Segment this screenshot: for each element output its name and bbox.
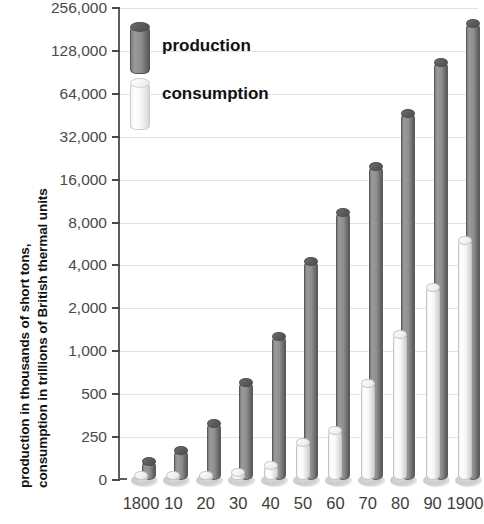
bar-consumption[interactable] [426, 287, 440, 480]
bar-consumption[interactable] [231, 472, 245, 480]
y-axis-tick-label: 128,000 [51, 42, 107, 60]
bar-production[interactable] [272, 336, 286, 480]
x-axis-tick-label: 90 [423, 494, 441, 513]
y-axis-tick [112, 136, 120, 138]
legend-item-production: production [130, 22, 350, 78]
y-axis-tick-label: 1,000 [68, 342, 107, 360]
coal-production-consumption-chart: production in thousands of short tons, c… [0, 0, 484, 524]
y-axis-tick-label: 500 [81, 385, 107, 403]
bar-consumption[interactable] [264, 465, 278, 480]
y-axis-tick [112, 393, 120, 395]
legend-label-consumption: consumption [162, 84, 269, 104]
y-axis-tick [112, 222, 120, 224]
y-axis-title-line-1: production in thousands of short tons, [17, 244, 32, 488]
chart-legend: production consumption [130, 22, 350, 134]
x-axis-tick-label: 70 [359, 494, 377, 513]
y-axis-tick [112, 50, 120, 52]
y-axis-tick-label: 250 [81, 428, 107, 446]
bar-consumption[interactable] [328, 430, 342, 480]
y-axis-tick [112, 179, 120, 181]
gridline [120, 137, 478, 138]
legend-label-production: production [162, 36, 251, 56]
y-axis-title-line-2: consumption in trillions of British ther… [35, 188, 50, 488]
y-axis-tick [112, 307, 120, 309]
y-axis-tick [112, 264, 120, 266]
bar-consumption[interactable] [361, 383, 375, 480]
legend-swatch-production-icon [130, 26, 150, 74]
y-axis-tick-label: 16,000 [60, 171, 107, 189]
x-axis-tick-label: 30 [229, 494, 247, 513]
legend-swatch-consumption-icon [130, 82, 150, 130]
y-axis-tick-label: 64,000 [60, 85, 107, 103]
gridline [120, 180, 478, 181]
gridline [120, 394, 478, 395]
bar-consumption[interactable] [296, 442, 310, 480]
x-axis-tick-label: 40 [261, 494, 279, 513]
gridline [120, 265, 478, 266]
gridline [120, 308, 478, 309]
bar-production[interactable] [239, 382, 253, 480]
x-axis-tick-label: 60 [326, 494, 344, 513]
y-axis-tick-label: 4,000 [68, 256, 107, 274]
x-axis-tick-label: 80 [391, 494, 409, 513]
y-axis-tick-label: 8,000 [68, 214, 107, 232]
y-axis-title: production in thousands of short tons, c… [0, 0, 44, 524]
gridline [120, 223, 478, 224]
y-axis-tick-label: 0 [98, 471, 107, 489]
legend-item-consumption: consumption [130, 78, 350, 134]
x-axis-tick-label: 1900 [447, 494, 484, 513]
y-axis-tick [112, 350, 120, 352]
x-axis-tick-label: 50 [294, 494, 312, 513]
gridline [120, 8, 478, 9]
y-axis-tick-label: 2,000 [68, 299, 107, 317]
x-axis-tick-label: 1800 [123, 494, 160, 513]
y-axis-tick [112, 479, 120, 481]
bar-consumption[interactable] [199, 475, 213, 480]
bar-consumption[interactable] [134, 475, 148, 480]
bar-consumption[interactable] [166, 475, 180, 480]
x-axis-tick-label: 10 [164, 494, 182, 513]
y-axis-tick [112, 7, 120, 9]
y-axis-line [118, 8, 120, 480]
y-axis-tick-label: 256,000 [51, 0, 107, 17]
y-axis-tick-label: 32,000 [60, 128, 107, 146]
x-axis-tick-label: 20 [197, 494, 215, 513]
bar-consumption[interactable] [458, 240, 472, 480]
y-axis-tick [112, 93, 120, 95]
bar-consumption[interactable] [393, 334, 407, 480]
gridline [120, 351, 478, 352]
y-axis-tick [112, 436, 120, 438]
